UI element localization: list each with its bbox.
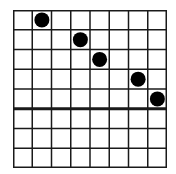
grid-canvas <box>13 10 167 168</box>
dot-marker <box>131 72 146 87</box>
dot-marker <box>150 91 165 106</box>
dot-marker <box>73 32 88 47</box>
dot-grid-diagram <box>13 10 167 168</box>
dot-marker <box>34 12 49 27</box>
dot-marker <box>92 52 107 67</box>
